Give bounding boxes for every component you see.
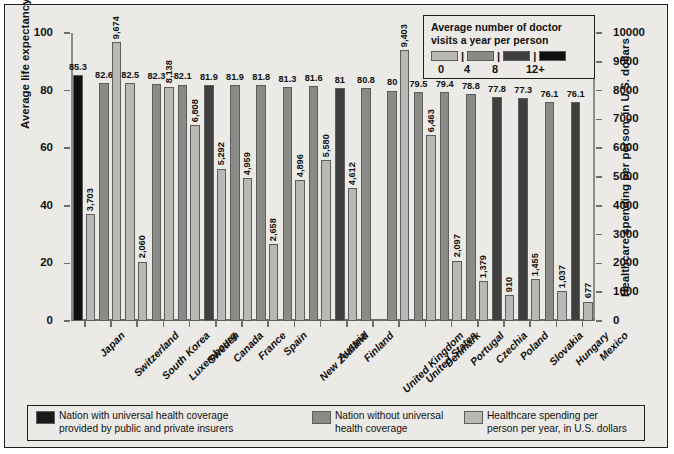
- bar-life-expectancy[interactable]: [178, 85, 188, 321]
- y-tick-label-left: 40: [40, 200, 53, 212]
- bar-life-expectancy[interactable]: [518, 98, 528, 321]
- bar-label-life-expectancy: 81.9: [200, 73, 218, 82]
- x-tick: [136, 321, 138, 327]
- bar-healthcare-spending[interactable]: [400, 50, 410, 321]
- bar-life-expectancy[interactable]: [335, 88, 345, 321]
- x-tick: [267, 321, 269, 327]
- bar-life-expectancy[interactable]: [361, 88, 371, 321]
- bar-group: 81.95,292: [202, 33, 228, 321]
- x-tick: [241, 321, 243, 327]
- bar-healthcare-spending[interactable]: [348, 188, 358, 321]
- bottom-legend-line1: Nation without universal: [335, 410, 443, 423]
- y-tick-right: [596, 263, 602, 265]
- bar-life-expectancy[interactable]: [440, 92, 450, 321]
- x-axis-label-japan: Japan: [97, 329, 127, 359]
- doctor-visits-separator: |: [497, 50, 500, 62]
- bar-healthcare-spending[interactable]: [321, 160, 331, 321]
- bar-life-expectancy[interactable]: [125, 83, 135, 321]
- x-tick: [110, 321, 112, 327]
- bar-healthcare-spending[interactable]: [557, 291, 567, 321]
- y-tick-left: [64, 147, 70, 149]
- bar-healthcare-spending[interactable]: [112, 42, 122, 321]
- bottom-legend-text: Nation without universalhealth coverage: [335, 410, 443, 436]
- bar-life-expectancy[interactable]: [230, 85, 240, 321]
- bar-group: 814,612: [333, 33, 359, 321]
- doctor-visits-tick-4: 4: [464, 63, 470, 75]
- bar-healthcare-spending[interactable]: [243, 178, 253, 321]
- bar-life-expectancy[interactable]: [466, 94, 476, 321]
- bottom-legend-line2: person per year, in U.S. dollars: [487, 423, 627, 436]
- doctor-visits-separator: |: [533, 50, 536, 62]
- doctor-visits-swatch-12plus: [539, 51, 566, 61]
- bar-life-expectancy[interactable]: [492, 97, 502, 321]
- bar-label-life-expectancy: 80: [387, 78, 397, 87]
- y-tick-label-left: 100: [34, 27, 53, 39]
- bar-group: 82.16,808: [176, 33, 202, 321]
- bar-label-life-expectancy: 81.8: [252, 73, 270, 82]
- bar-label-healthcare-spending: 1,455: [531, 253, 540, 276]
- bar-life-expectancy[interactable]: [73, 75, 83, 321]
- bar-label-life-expectancy: 82.3: [147, 72, 165, 81]
- doctor-visits-swatch-8: [503, 51, 530, 61]
- bar-label-healthcare-spending: 677: [584, 283, 593, 298]
- bar-label-life-expectancy: 82.5: [121, 71, 139, 80]
- x-tick: [529, 321, 531, 327]
- bar-healthcare-spending[interactable]: [505, 295, 515, 321]
- bar-healthcare-spending[interactable]: [583, 302, 593, 321]
- bar-label-healthcare-spending: 9,674: [112, 16, 121, 39]
- bar-healthcare-spending[interactable]: [269, 244, 279, 321]
- y-tick-right: [596, 234, 602, 236]
- bar-group: 82.38,138: [150, 33, 176, 321]
- bar-label-life-expectancy: 76.1: [540, 90, 558, 99]
- bar-life-expectancy[interactable]: [256, 85, 266, 321]
- bar-healthcare-spending[interactable]: [426, 135, 436, 321]
- bottom-legend-item: Healthcare spending perperson per year, …: [464, 410, 627, 436]
- bar-healthcare-spending[interactable]: [164, 87, 174, 321]
- bar-label-healthcare-spending: 2,658: [269, 218, 278, 241]
- x-tick: [320, 321, 322, 327]
- bar-label-life-expectancy: 78.8: [462, 82, 480, 91]
- y-tick-left: [64, 205, 70, 207]
- bar-healthcare-spending[interactable]: [531, 279, 541, 321]
- x-tick: [477, 321, 479, 327]
- bar-life-expectancy[interactable]: [204, 85, 214, 321]
- bar-group: 82.52,060: [123, 33, 149, 321]
- bar-label-healthcare-spending: 5,580: [322, 134, 331, 157]
- bar-life-expectancy[interactable]: [309, 86, 319, 321]
- doctor-visits-tick-0: 0: [438, 63, 444, 75]
- bar-label-life-expectancy: 82.1: [174, 72, 192, 81]
- bar-life-expectancy[interactable]: [99, 83, 109, 321]
- bottom-legend-swatch: [36, 411, 55, 424]
- bar-healthcare-spending[interactable]: [86, 214, 96, 321]
- y-tick-right: [596, 90, 602, 92]
- bar-life-expectancy[interactable]: [571, 102, 581, 321]
- bar-label-life-expectancy: 77.8: [488, 85, 506, 94]
- bar-healthcare-spending[interactable]: [452, 261, 462, 321]
- bar-label-healthcare-spending: 4,612: [348, 162, 357, 185]
- bottom-legend-text: Healthcare spending perperson per year, …: [487, 410, 627, 436]
- doctor-visits-tick-8: 8: [492, 63, 498, 75]
- doctor-visits-legend-title-line1: Average number of doctor: [431, 21, 587, 34]
- bar-label-healthcare-spending: 9,403: [400, 24, 409, 47]
- bar-label-healthcare-spending: 2,060: [138, 236, 147, 259]
- bar-healthcare-spending[interactable]: [190, 125, 200, 321]
- doctor-visits-legend-title-line2: visits a year per person: [431, 34, 587, 47]
- bar-healthcare-spending[interactable]: [479, 281, 489, 321]
- bar-healthcare-spending[interactable]: [138, 262, 148, 321]
- x-tick: [215, 321, 217, 327]
- bar-label-healthcare-spending: 6,463: [426, 109, 435, 132]
- doctor-visits-tick-12plus: 12+: [526, 63, 545, 75]
- bar-life-expectancy[interactable]: [152, 84, 162, 321]
- bar-healthcare-spending[interactable]: [295, 180, 305, 321]
- bottom-legend-line2: provided by public and private insurers: [59, 423, 233, 436]
- x-tick: [84, 321, 86, 327]
- y-tick-right: [596, 176, 602, 178]
- y-tick-right: [596, 320, 602, 322]
- bar-life-expectancy[interactable]: [545, 102, 555, 321]
- bar-life-expectancy[interactable]: [387, 91, 397, 321]
- bar-healthcare-spending[interactable]: [217, 169, 227, 321]
- y-tick-left: [64, 90, 70, 92]
- bar-life-expectancy[interactable]: [414, 92, 424, 321]
- bar-life-expectancy[interactable]: [283, 87, 293, 321]
- x-tick: [294, 321, 296, 327]
